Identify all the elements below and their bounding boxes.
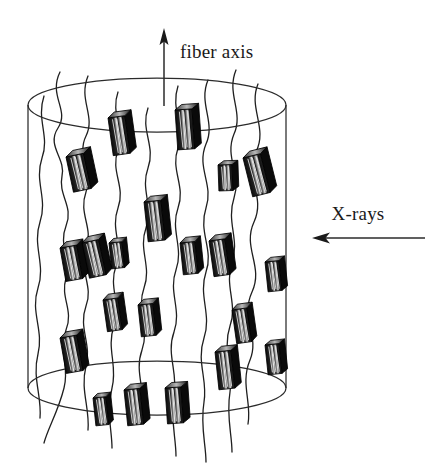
crystallite-block (123, 383, 150, 426)
crystallite-front-face (165, 387, 183, 424)
x-rays-label: X-rays (332, 203, 385, 224)
crystallite-block (265, 339, 288, 375)
crystallite-block (143, 195, 172, 242)
crystallite-block (175, 103, 202, 150)
crystallite-side-face (232, 160, 239, 190)
crystallite-front-face (175, 109, 195, 150)
figure-canvas: fiber axis X-rays (0, 0, 431, 466)
figure-background (0, 0, 431, 466)
crystallite-block (109, 237, 130, 269)
crystallite-block (265, 256, 288, 292)
crystallite-block (93, 392, 114, 426)
crystallite-block (179, 236, 204, 275)
crystallite-block (214, 345, 241, 390)
crystallite-block (137, 298, 162, 337)
crystallite-block (165, 381, 191, 424)
fiber-microstructure-figure: fiber axis X-rays (0, 0, 431, 466)
crystallite-block (218, 160, 239, 191)
fiber-axis-label: fiber axis (180, 41, 253, 62)
